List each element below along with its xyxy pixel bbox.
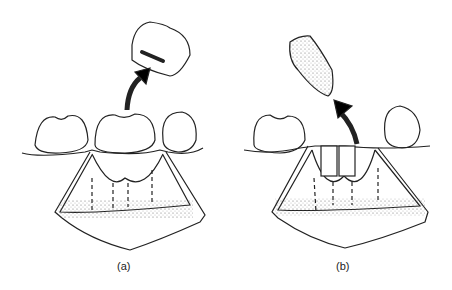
panel-a-label: (a) [117, 260, 130, 272]
diagram-canvas [0, 0, 452, 290]
panel-b-label: (b) [336, 260, 349, 272]
panel-b-illustration [244, 36, 430, 248]
panel-a-illustration [22, 22, 205, 250]
